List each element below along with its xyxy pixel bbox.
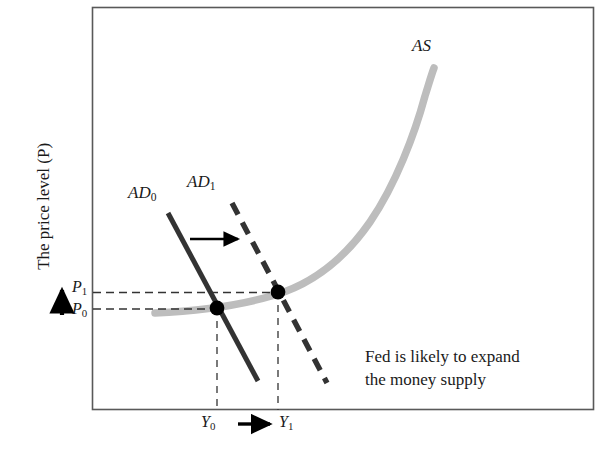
p0-axis-label-subscript: 0 — [82, 307, 87, 319]
y0-axis-label-subscript: 0 — [210, 420, 215, 432]
ad1-curve-label: AD1 — [187, 172, 215, 195]
y-axis-label: The price level (P) — [34, 106, 55, 306]
y0-axis-label-text: Y — [201, 413, 210, 430]
ad0-curve-label-subscript: 0 — [151, 191, 157, 204]
y1-axis-label-subscript: 1 — [288, 420, 293, 432]
diagram-canvas — [0, 0, 614, 465]
p1-axis-label-subscript: 1 — [82, 285, 87, 297]
as-curve-label-text: AS — [412, 36, 431, 55]
policy-annotation-line-2: the money supply — [365, 368, 520, 391]
ad0-curve-label: AD0 — [128, 183, 156, 206]
y0-axis-label: Y0 — [201, 412, 215, 434]
ad0-curve-label-text: AD — [128, 183, 151, 202]
p0-axis-label-text: P — [72, 300, 82, 317]
ad-as-diagram: The price level (P) AS AD0 AD1 P1 P0 Y0 … — [0, 0, 614, 465]
ad1-curve-label-text: AD — [187, 172, 210, 191]
as-curve-label: AS — [412, 36, 431, 57]
p1-axis-label: P1 — [72, 277, 87, 299]
new-equilibrium-dot — [271, 285, 286, 300]
initial-equilibrium-dot — [210, 301, 225, 316]
ad1-curve-label-subscript: 1 — [210, 180, 216, 193]
y1-axis-label-text: Y — [279, 413, 288, 430]
p0-axis-label: P0 — [72, 299, 87, 321]
y1-axis-label: Y1 — [279, 412, 293, 434]
policy-annotation-line-1: Fed is likely to expand — [365, 345, 520, 368]
y-axis-label-text: The price level (P) — [34, 143, 53, 270]
p1-axis-label-text: P — [72, 278, 82, 295]
policy-annotation: Fed is likely to expand the money supply — [365, 345, 520, 392]
